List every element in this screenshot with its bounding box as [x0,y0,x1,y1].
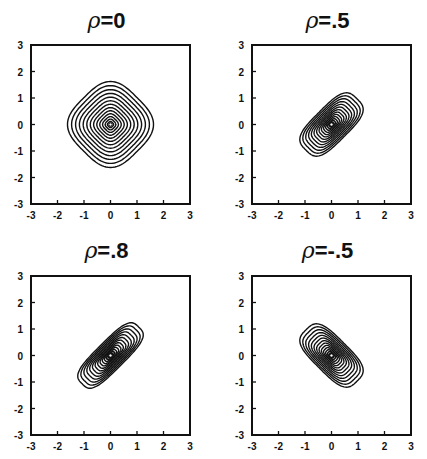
contour-plot: -3-2-10123-3-2-10123 [0,0,213,229]
y-tick-label: 0 [17,120,23,131]
y-tick-label: 1 [17,324,23,335]
x-tick-label: -3 [248,441,257,452]
x-tick-label: 3 [187,441,193,452]
x-tick-label: 2 [161,210,167,221]
y-tick-label: 1 [238,93,244,104]
y-tick-label: -3 [14,199,23,210]
y-tick-label: -1 [235,146,244,157]
x-tick-label: 2 [382,210,388,221]
y-tick-label: -2 [14,173,23,184]
y-tick-label: 3 [17,271,23,282]
y-tick-label: -1 [14,377,23,388]
x-tick-label: 1 [134,210,140,221]
x-tick-label: 0 [329,441,335,452]
panel-rho-0: ρ=0 -3-2-10123-3-2-10123 [0,0,213,229]
x-tick-label: -3 [248,210,257,221]
x-tick-label: -2 [53,441,62,452]
y-tick-label: -2 [14,404,23,415]
y-tick-label: 3 [238,271,244,282]
x-tick-label: -2 [53,210,62,221]
y-tick-label: 2 [238,298,244,309]
y-tick-label: 3 [17,40,23,51]
y-tick-label: -3 [14,430,23,441]
y-tick-label: -1 [235,377,244,388]
y-tick-label: 2 [17,67,23,78]
x-tick-label: -3 [27,210,36,221]
x-tick-label: 2 [382,441,388,452]
contour-center [109,123,112,126]
y-tick-label: 2 [17,298,23,309]
y-tick-label: -3 [235,199,244,210]
x-tick-label: -2 [274,441,283,452]
panel-rho-neg0.5: ρ=-.5 -3-2-10123-3-2-10123 [213,230,426,459]
x-tick-label: -1 [80,441,89,452]
x-tick-label: -3 [27,441,36,452]
y-tick-label: 2 [238,67,244,78]
x-tick-label: 1 [355,210,361,221]
x-tick-label: 0 [108,210,114,221]
panel-rho-0.8: ρ=.8 -3-2-10123-3-2-10123 [0,230,213,459]
panel-rho-0.5: ρ=.5 -3-2-10123-3-2-10123 [213,0,426,229]
contour-plot: -3-2-10123-3-2-10123 [0,230,213,459]
contour-center [109,354,112,357]
x-tick-label: 3 [408,441,414,452]
x-tick-label: -1 [301,210,310,221]
x-tick-label: -2 [274,210,283,221]
y-tick-label: -1 [14,146,23,157]
y-tick-label: 0 [17,351,23,362]
y-tick-label: -2 [235,404,244,415]
y-tick-label: 3 [238,40,244,51]
contour-plot: -3-2-10123-3-2-10123 [213,0,427,229]
x-tick-label: 3 [187,210,193,221]
x-tick-label: 3 [408,210,414,221]
x-tick-label: 0 [108,441,114,452]
contour-plot: -3-2-10123-3-2-10123 [213,230,427,459]
y-tick-label: 1 [17,93,23,104]
x-tick-label: 1 [355,441,361,452]
x-tick-label: -1 [80,210,89,221]
x-tick-label: -1 [301,441,310,452]
contour-center [330,123,333,126]
y-tick-label: 0 [238,351,244,362]
y-tick-label: 1 [238,324,244,335]
x-tick-label: 0 [329,210,335,221]
x-tick-label: 1 [134,441,140,452]
y-tick-label: -2 [235,173,244,184]
x-tick-label: 2 [161,441,167,452]
y-tick-label: 0 [238,120,244,131]
contour-center [330,354,333,357]
y-tick-label: -3 [235,430,244,441]
